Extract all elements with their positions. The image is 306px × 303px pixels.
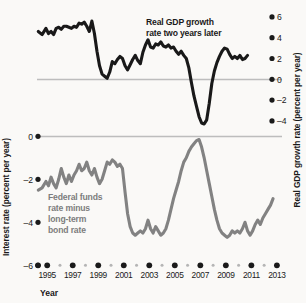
annotation-gdp-line1: Real GDP growth (146, 17, 214, 27)
x-axis-title: Year (40, 288, 59, 298)
annotation-spread-line2: rate minus (48, 203, 90, 213)
left-axis-title: Interest rate (percent per year) (1, 138, 11, 256)
x-axis-minor-tick-dot (135, 264, 138, 267)
x-axis-year-label: 1999 (90, 270, 108, 280)
x-axis-tick-dot (223, 262, 229, 268)
x-axis-minor-tick-dot (110, 264, 113, 267)
annotation-gdp-line2: rate two years later (146, 28, 222, 38)
left-axis-tick-label: –6 (23, 261, 33, 271)
right-axis-title: Real GDP growth rate (percent per year) (292, 52, 302, 207)
x-axis-minor-tick-dot (161, 264, 164, 267)
right-axis-tick-label: 2 (277, 54, 282, 64)
annotation-spread-line3: long-term (48, 214, 87, 224)
x-axis-year-label: 1997 (64, 270, 82, 280)
x-axis-tick-dot (121, 262, 127, 268)
x-axis-tick-dot (172, 262, 178, 268)
left-axis-tick-dot (35, 177, 40, 182)
x-axis-year-label: 2005 (166, 270, 184, 280)
right-axis-tick-dot (269, 118, 274, 123)
x-axis-tick-dot (248, 262, 254, 268)
x-axis-origin-dot (35, 262, 41, 268)
x-axis-tick-dot (70, 262, 76, 268)
x-axis-minor-tick-dot (58, 264, 61, 267)
left-axis-tick-label: –4 (23, 218, 33, 228)
x-axis-tick-dot (146, 262, 152, 268)
annotation-spread-line1: Federal funds (48, 192, 103, 202)
left-axis-tick-dot (35, 134, 40, 139)
x-axis-tick-dot (44, 262, 50, 268)
x-axis-year-label: 2001 (115, 270, 133, 280)
right-axis-tick-dot (269, 35, 274, 40)
x-axis-tick-dot (95, 262, 101, 268)
right-axis-tick-label: 0 (277, 75, 282, 85)
x-axis-tick-dot (197, 262, 203, 268)
x-axis-tick-dot (274, 262, 280, 268)
x-axis-minor-tick-dot (84, 264, 87, 267)
left-axis-tick-dot (35, 220, 40, 225)
x-axis-year-label: 2003 (141, 270, 159, 280)
right-axis-tick-label: –4 (277, 116, 287, 126)
right-axis-tick-dot (269, 98, 274, 103)
right-axis-tick-dot (269, 56, 274, 61)
x-axis-year-label: 2011 (243, 270, 260, 280)
left-axis-tick-label: 0 (28, 132, 33, 142)
x-axis-year-label: 2009 (217, 270, 235, 280)
right-axis-tick-label: –2 (277, 95, 287, 105)
dual-panel-line-chart: 6420–2–4 Real GDP growth rate (percent p… (0, 0, 306, 303)
chart-figure: 6420–2–4 Real GDP growth rate (percent p… (0, 0, 306, 303)
x-axis-minor-tick-dot (263, 264, 266, 267)
x-axis-minor-tick-dot (186, 264, 189, 267)
annotation-spread-line4: bond rate (48, 225, 86, 235)
right-axis-tick-dot (269, 14, 274, 19)
x-axis-year-label: 1995 (38, 270, 56, 280)
x-axis-minor-tick-dot (237, 264, 240, 267)
left-axis-tick-label: –2 (23, 175, 33, 185)
x-axis-minor-tick-dot (212, 264, 215, 267)
x-axis-year-label: 2007 (192, 270, 210, 280)
right-axis-tick-dot (269, 77, 274, 82)
right-axis-tick-label: 4 (277, 33, 282, 43)
x-axis-year-label: 2013 (268, 270, 286, 280)
annotation-real-gdp: Real GDP growth rate two years later (146, 17, 222, 38)
right-axis-tick-label: 6 (277, 12, 282, 22)
